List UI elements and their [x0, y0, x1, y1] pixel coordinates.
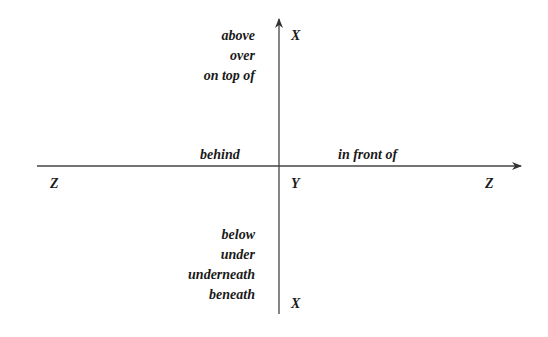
preposition-over: over [230, 49, 255, 63]
preposition-beneath: beneath [209, 288, 255, 302]
axis-label-x-bottom: X [291, 297, 300, 311]
upper-prepositions: above over on top of [204, 29, 255, 89]
axis-label-z-right: Z [485, 177, 494, 191]
origin-label-y: Y [291, 177, 300, 191]
preposition-on-top-of: on top of [204, 69, 255, 83]
preposition-in-front-of: in front of [338, 148, 397, 162]
preposition-behind: behind [200, 148, 240, 162]
axis-label-x-top: X [291, 29, 300, 43]
preposition-above: above [222, 29, 255, 43]
preposition-under: under [221, 248, 255, 262]
preposition-below: below [222, 228, 255, 242]
lower-prepositions: below under underneath beneath [188, 228, 255, 308]
axis-label-z-left: Z [50, 177, 59, 191]
preposition-underneath: underneath [188, 268, 255, 282]
axes [0, 0, 548, 337]
